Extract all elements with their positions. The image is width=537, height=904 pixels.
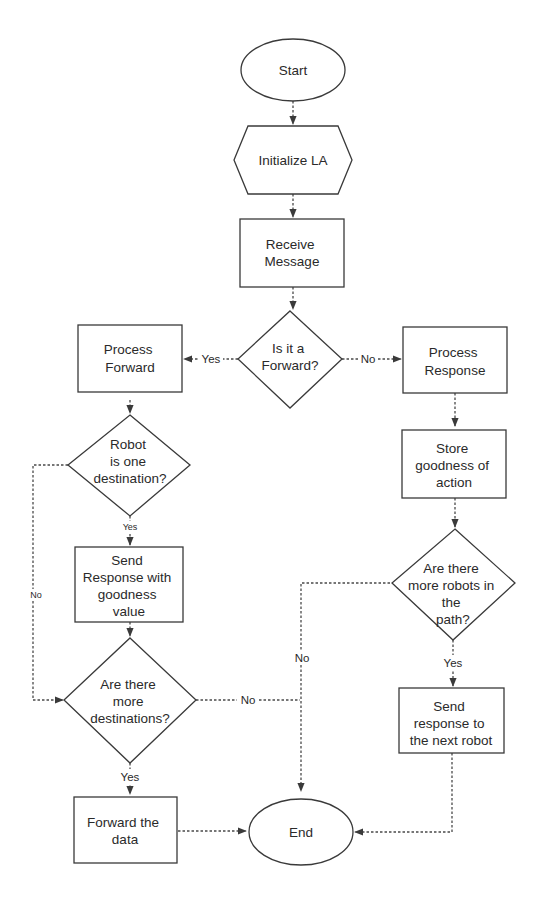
edge-label-no-more-dest: No <box>241 694 256 706</box>
edge-label-yes-forward: Yes <box>202 353 221 365</box>
node-initialize-la: Initialize LA <box>234 126 352 194</box>
node-initialize-la-label: Initialize LA <box>258 153 327 168</box>
edge-send-next-to-end <box>355 753 452 832</box>
node-is-forward-decision: Is it a Forward? <box>238 311 342 408</box>
flowchart-canvas: Yes No Yes No No Yes No Yes Start Initia… <box>0 0 537 904</box>
node-send-next-robot: Send response to the next robot <box>399 688 504 753</box>
node-robot-destination-decision: Robot is one destination? <box>68 415 190 516</box>
edge-label-no-more-robots: No <box>295 652 310 664</box>
node-more-robots-decision: Are there more robots in the path? <box>392 529 515 640</box>
node-forward-data: Forward the data <box>74 797 177 863</box>
node-more-destinations-decision: Are there more destinations? <box>64 638 196 763</box>
node-send-response-goodness: Send Response with goodness value <box>75 547 183 622</box>
edge-robot-dest-no <box>33 465 68 700</box>
edge-label-yes-more-robots: Yes <box>444 657 463 669</box>
node-end-label: End <box>289 825 313 840</box>
edge-label-yes-more-dest: Yes <box>121 771 140 783</box>
node-start: Start <box>241 39 345 101</box>
node-end: End <box>249 799 353 865</box>
node-process-response: Process Response <box>403 327 507 393</box>
node-process-forward: Process Forward <box>78 325 182 392</box>
edge-more-robots-no <box>301 583 390 791</box>
edge-label-no-response: No <box>361 353 376 365</box>
node-store-goodness: Store goodness of action <box>402 430 506 498</box>
node-receive-message: Receive Message <box>240 219 344 287</box>
edge-label-no-robot-dest: No <box>30 590 42 600</box>
edge-label-yes-robot-dest: Yes <box>123 522 138 532</box>
node-start-label: Start <box>279 63 308 78</box>
